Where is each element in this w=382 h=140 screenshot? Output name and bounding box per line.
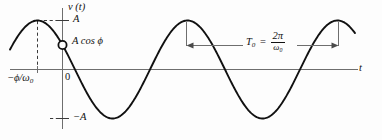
y-axis-label: v (t) <box>68 2 85 13</box>
phase-offset-label: −ϕ/ω0 <box>8 73 33 85</box>
period-denominator: ω0 <box>271 43 286 54</box>
sinusoid-figure: v (t) A −A A cos ϕ 0 −ϕ/ω0 t T0 = 2π ω0 <box>0 0 382 140</box>
x-axis-label: t <box>359 63 362 74</box>
period-arrowhead-left <box>187 43 194 49</box>
phase-offset-subscript: 0 <box>30 77 34 85</box>
period-subscript: 0 <box>252 41 256 49</box>
marker-value-label: A cos ϕ <box>72 36 103 47</box>
amplitude-positive-label: A <box>73 14 79 25</box>
phase-offset-expression: ϕ/ω <box>14 72 30 83</box>
period-equals-sign: = <box>260 36 266 47</box>
amplitude-negative-label: −A <box>73 112 87 123</box>
period-denominator-subscript: 0 <box>279 46 282 52</box>
period-label: T0 = 2π ω0 <box>246 31 285 53</box>
period-arrowhead-right <box>332 43 339 49</box>
plot-canvas <box>0 0 382 140</box>
period-fraction: 2π ω0 <box>271 31 286 53</box>
marker-a-cos-phi <box>58 41 66 49</box>
origin-label: 0 <box>65 72 70 83</box>
